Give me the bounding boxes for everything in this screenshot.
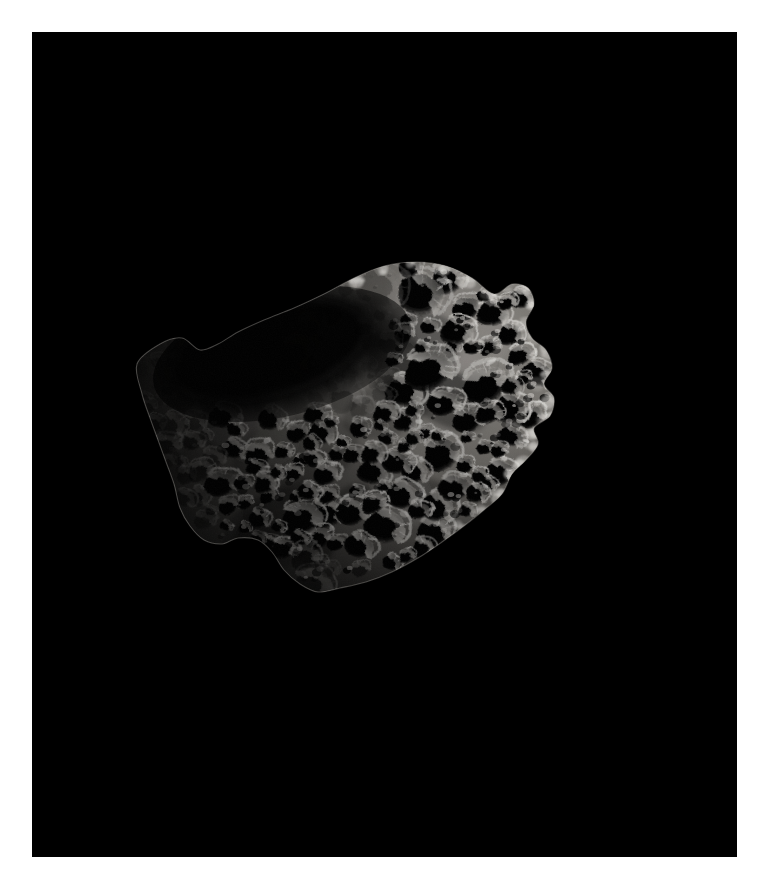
photo-plate [32,32,737,857]
crater-wall-striation [411,254,412,260]
crater-wall-striation [414,255,419,261]
crater-rim-highlight [551,377,559,384]
crater-wall-striation [454,263,460,269]
crater-wall-striation [510,476,517,480]
crater-rim-highlight [191,332,199,339]
crater-rim-highlight [417,257,422,260]
crater-wall-striation [188,335,196,339]
moon-hyperion [32,32,737,857]
crater-wall-striation [176,327,178,333]
crater-wall-striation [431,550,437,552]
crater-wall-striation [186,330,194,335]
crater-wall-striation [547,380,555,384]
crater-wall-striation [185,331,195,337]
photograph-page: Hyperion sponge-like cratered surface of… [0,0,770,890]
crater-wall-striation [162,336,164,340]
crater-wall-striation [547,376,557,380]
crater-wall-striation [181,326,188,333]
crater-wall-striation [184,329,193,336]
crater-wall-striation [161,336,163,341]
crater-rim-highlight [446,258,456,265]
crater-wall-striation [411,254,412,259]
surface-grain [32,32,737,857]
crater-wall-striation [176,328,180,336]
moon-body [32,32,737,857]
crater-rim-highlight [533,294,538,297]
